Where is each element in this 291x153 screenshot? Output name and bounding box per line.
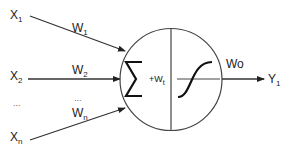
weight-label-n: Wn	[72, 107, 88, 122]
input-label-1: X1	[10, 9, 22, 24]
summation-icon	[126, 62, 142, 96]
weight-label-2: W2	[72, 64, 88, 79]
weight-label-1: W1	[72, 22, 88, 37]
input-ellipsis: ...	[13, 99, 21, 108]
output-label: Y1	[268, 73, 280, 88]
bias-label: +Wt	[149, 75, 165, 86]
weight-ellipsis: ...	[74, 94, 82, 103]
output-weight-label: Wo	[226, 58, 244, 70]
neuron-diagram	[0, 0, 291, 153]
input-label-n: Xn	[10, 131, 22, 146]
input-label-2: X2	[10, 70, 22, 85]
